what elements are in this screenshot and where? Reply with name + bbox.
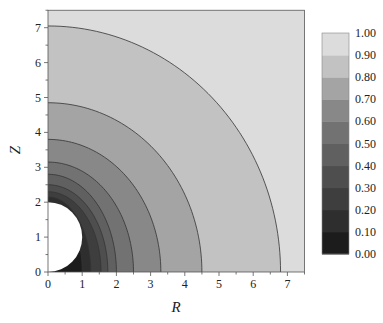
x-tick-label: 3 (148, 277, 154, 291)
colorbar-band (322, 188, 349, 211)
colorbar-tick-label: 0.80 (355, 70, 376, 84)
y-axis-title: Z (7, 145, 23, 154)
x-tick-label: 4 (182, 277, 188, 291)
x-tick-label: 7 (284, 277, 290, 291)
x-tick-label: 1 (79, 277, 85, 291)
x-axis-title: R (170, 299, 180, 315)
colorbar-tick-label: 0.00 (355, 247, 376, 261)
x-tick-label: 2 (113, 277, 119, 291)
colorbar: 1.000.900.800.700.600.500.400.300.200.10… (322, 26, 376, 261)
contour-chart: 0123456701234567 1.000.900.800.700.600.5… (0, 0, 383, 323)
y-tick-label: 5 (35, 91, 41, 105)
colorbar-band (322, 166, 349, 189)
colorbar-band (322, 33, 349, 56)
colorbar-band (322, 210, 349, 233)
y-tick-label: 4 (35, 125, 41, 139)
y-tick-label: 1 (35, 230, 41, 244)
colorbar-band (322, 77, 349, 100)
colorbar-tick-label: 1.00 (355, 26, 376, 40)
colorbar-tick-label: 0.60 (355, 114, 376, 128)
y-tick-label: 3 (35, 160, 41, 174)
colorbar-band (322, 121, 349, 144)
colorbar-tick-label: 0.40 (355, 159, 376, 173)
colorbar-tick-label: 0.30 (355, 181, 376, 195)
contour-fills (48, 10, 305, 272)
y-tick-label: 7 (35, 21, 41, 35)
y-tick-label: 2 (35, 195, 41, 209)
y-tick-label: 0 (35, 265, 41, 279)
colorbar-tick-label: 0.70 (355, 92, 376, 106)
x-tick-label: 6 (250, 277, 256, 291)
colorbar-band (322, 232, 349, 255)
colorbar-tick-label: 0.20 (355, 203, 376, 217)
colorbar-band (322, 99, 349, 122)
colorbar-tick-label: 0.50 (355, 137, 376, 151)
x-tick-label: 0 (45, 277, 51, 291)
x-tick-label: 5 (216, 277, 222, 291)
colorbar-band (322, 144, 349, 167)
colorbar-band (322, 55, 349, 78)
y-tick-label: 6 (35, 56, 41, 70)
colorbar-tick-label: 0.90 (355, 48, 376, 62)
colorbar-tick-label: 0.10 (355, 225, 376, 239)
